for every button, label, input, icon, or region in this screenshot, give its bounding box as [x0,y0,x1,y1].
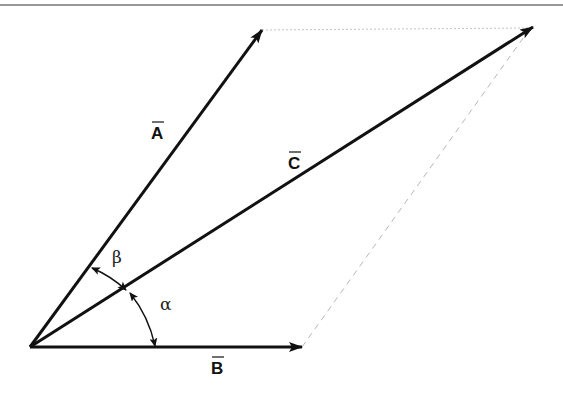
label-angle-beta: β [112,247,122,267]
vector-a-arrow [30,30,262,347]
angle-alpha-arc [130,293,155,346]
label-vector-c: C [288,152,301,173]
angle-beta-arc [92,268,126,290]
svg-text:B: B [211,359,223,378]
guide-b-to-c [302,34,526,347]
vector-diagram: A C B β α [0,0,563,395]
label-vector-b: B [211,357,224,378]
label-vector-a: A [151,122,164,143]
svg-text:C: C [288,154,300,173]
guide-a-to-c [262,28,530,30]
label-angle-alpha: α [160,294,172,314]
svg-text:A: A [151,124,163,143]
vector-c-arrow [30,27,533,347]
